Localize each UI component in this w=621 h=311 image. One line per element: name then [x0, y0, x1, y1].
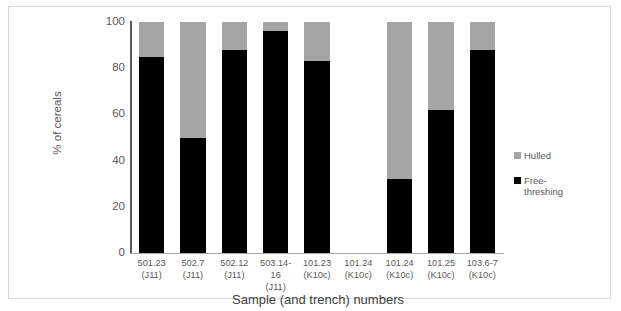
x-tick-label: 101.24(K10c)	[338, 257, 379, 281]
x-tick-label: 502.12(J11)	[214, 257, 255, 281]
x-tick-label: 502.7 (J11)	[172, 257, 213, 281]
bar-segment-hulled[interactable]	[387, 22, 412, 179]
x-tick-label-line1: 101.24	[386, 258, 414, 268]
legend-label-line2: threshing	[524, 186, 563, 197]
bar-segment-free-threshing[interactable]	[222, 50, 247, 253]
y-axis-ticks: 100 80 60 40 20 0	[83, 22, 125, 253]
plot-area	[131, 22, 503, 253]
bar-segment-hulled[interactable]	[139, 22, 164, 57]
legend-label-free-threshing: Free-threshing	[524, 175, 563, 197]
x-tick-label-line2: (K10c)	[420, 269, 461, 281]
legend-swatch-free-threshing	[514, 177, 521, 184]
legend-label-line1: Free-	[524, 175, 547, 186]
x-tick-label: 501.23(J11)	[131, 257, 172, 281]
x-tick-label-line1: 101.25	[427, 258, 455, 268]
x-tick-label-line1: 502.12	[220, 258, 248, 268]
y-tick-20: 20	[85, 201, 125, 213]
bar-segment-free-threshing[interactable]	[139, 57, 164, 253]
x-tick-label-line1: 503.14-16	[260, 258, 291, 280]
bar-segment-free-threshing[interactable]	[263, 31, 288, 253]
bar-segment-hulled[interactable]	[222, 22, 247, 50]
bar-stack[interactable]	[180, 22, 205, 253]
x-tick-label-line2: (K10c)	[338, 269, 379, 281]
y-tick-0: 0	[85, 247, 125, 259]
x-tick-label-line1: 501.23	[138, 258, 166, 268]
bar-stack[interactable]	[222, 22, 247, 253]
bar-stack[interactable]	[387, 22, 412, 253]
x-tick-label-line1: 103.6-7	[467, 258, 498, 268]
bar-segment-free-threshing[interactable]	[180, 138, 205, 254]
x-tick-label-line2: (J11)	[214, 269, 255, 281]
x-tick-label: 101.24(K10c)	[379, 257, 420, 281]
x-tick-label: 503.14-16(J11)	[255, 257, 296, 293]
x-tick-label-line2: (J11)	[131, 269, 172, 281]
y-tick-40: 40	[85, 155, 125, 167]
bar-segment-hulled[interactable]	[180, 22, 205, 138]
bar-stack[interactable]	[139, 22, 164, 253]
x-axis-title: Sample (and trench) numbers	[109, 292, 527, 307]
bar-segment-hulled[interactable]	[263, 22, 288, 31]
bar-stack[interactable]	[263, 22, 288, 253]
chart-legend: Hulled Free-threshing	[514, 150, 606, 211]
bar-stack[interactable]	[304, 22, 329, 253]
bar-segment-hulled[interactable]	[304, 22, 329, 61]
bar-segment-hulled[interactable]	[428, 22, 453, 110]
y-axis-title: % of cereals	[51, 53, 63, 193]
x-tick-label-line2: (K10c)	[296, 269, 337, 281]
bar-segment-free-threshing[interactable]	[470, 50, 495, 253]
legend-label-hulled: Hulled	[524, 150, 551, 161]
bar-segment-free-threshing[interactable]	[304, 61, 329, 253]
legend-item-free-threshing[interactable]: Free-threshing	[514, 175, 606, 197]
y-tick-100: 100	[85, 16, 125, 28]
x-axis-line	[130, 253, 504, 254]
x-tick-label: 103.6-7(K10c)	[462, 257, 503, 281]
bar-segment-free-threshing[interactable]	[387, 179, 412, 253]
bar-segment-free-threshing[interactable]	[428, 110, 453, 253]
x-tick-label-line1: 101.24	[344, 258, 372, 268]
x-tick-label: 101.25(K10c)	[420, 257, 461, 281]
legend-swatch-hulled	[514, 152, 521, 159]
bar-stack[interactable]	[470, 22, 495, 253]
x-axis-tick-labels: 501.23(J11)502.7 (J11)502.12(J11)503.14-…	[131, 257, 503, 291]
bar-segment-hulled[interactable]	[470, 22, 495, 50]
x-tick-label-line1: 502.7 (J11)	[181, 258, 204, 280]
chart-figure: % of cereals 100 80 60 40 20 0 501.23(J1…	[8, 6, 611, 299]
x-tick-label-line2: (K10c)	[379, 269, 420, 281]
legend-item-hulled[interactable]: Hulled	[514, 150, 606, 161]
x-tick-label-line2: (K10c)	[462, 269, 503, 281]
y-tick-80: 80	[85, 62, 125, 74]
y-tick-60: 60	[85, 109, 125, 121]
x-tick-label-line1: 101.23	[303, 258, 331, 268]
x-tick-label: 101.23(K10c)	[296, 257, 337, 281]
bar-stack[interactable]	[428, 22, 453, 253]
